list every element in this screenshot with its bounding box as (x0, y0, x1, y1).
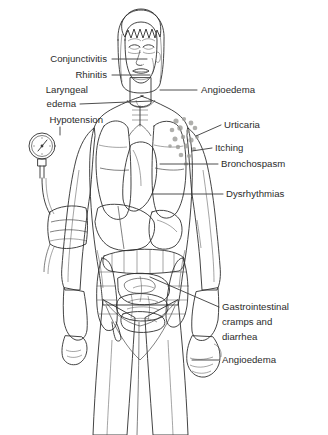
eyes (128, 39, 155, 54)
urticaria-spot (182, 117, 186, 121)
ascending-colon (97, 258, 118, 331)
label-laryngeal-edema-line1: Laryngeal (46, 84, 88, 95)
bp-gauge (29, 133, 55, 178)
head (118, 9, 164, 93)
label-angioedema-face: Angioedema (201, 84, 256, 95)
label-urticaria: Urticaria (224, 119, 261, 130)
leader-lines (60, 59, 223, 360)
bp-cuff (44, 206, 88, 274)
hand-right (187, 336, 221, 377)
small-intestine (112, 273, 170, 341)
urticaria-spot (168, 144, 172, 148)
urticaria-spot (179, 153, 184, 158)
anatomical-illustration: ConjunctivitisRhinitisLaryngealedemaHypo… (0, 0, 328, 435)
urticaria-spot (186, 129, 190, 133)
labels-right: AngioedemaUrticariaItchingBronchospasmDy… (201, 84, 289, 365)
blood-pressure-apparatus (29, 133, 88, 274)
urticaria-spot (170, 128, 175, 133)
label-hypotension: Hypotension (49, 114, 103, 125)
transverse-colon (103, 249, 184, 273)
labels-left: ConjunctivitisRhinitisLaryngealedemaHypo… (46, 53, 108, 125)
label-gi-cramps-line1: Gastrointestinal (222, 301, 289, 312)
urticaria-spot (176, 145, 180, 149)
torso (90, 96, 193, 360)
label-rhinitis: Rhinitis (75, 69, 107, 80)
urticaria-spot (187, 154, 191, 158)
urticaria-spot (173, 137, 178, 142)
urticaria-spot (193, 126, 198, 131)
legs (93, 300, 188, 435)
label-conjunctivitis: Conjunctivitis (50, 53, 107, 64)
label-laryngeal-edema-line2: edema (47, 98, 77, 109)
label-itching: Itching (215, 142, 243, 153)
anaphylaxis-diagram: ConjunctivitisRhinitisLaryngealedemaHypo… (0, 0, 328, 435)
mouth (133, 69, 149, 74)
leader-urticaria (196, 125, 221, 136)
urticaria-spot (177, 125, 182, 130)
label-dysrhythmias: Dysrhythmias (226, 188, 285, 199)
label-gi-cramps-line3: diarrhea (222, 331, 258, 342)
label-gi-cramps-line2: cramps and (222, 316, 272, 327)
urticaria-spot (189, 121, 194, 126)
stomach (149, 210, 182, 249)
leader-gi-cramps-line1 (150, 277, 219, 307)
urticaria-spot (188, 137, 193, 142)
urticaria-spot (173, 118, 178, 123)
urticaria-spot (181, 135, 185, 139)
label-angioedema-hand: Angioedema (222, 354, 277, 365)
leader-laryngeal-edema-line2 (80, 101, 152, 104)
label-bronchospasm: Bronchospasm (221, 158, 285, 169)
nose (136, 50, 142, 65)
liver (95, 204, 155, 250)
urticaria-spot (184, 144, 189, 149)
